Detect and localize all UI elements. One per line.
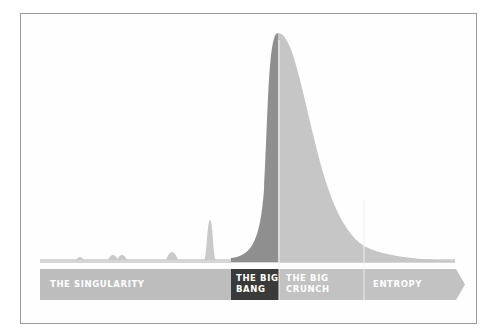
spike-5: [204, 220, 216, 260]
label-entropy: ENTROPY: [373, 279, 422, 290]
label-big-bang: THE BIG BANG: [236, 273, 279, 295]
big-bang-rise: [231, 33, 278, 262]
spike-1: [76, 257, 84, 260]
label-big-crunch: THE BIG CRUNCH: [286, 273, 330, 295]
singularity-spikes: [76, 220, 216, 260]
spike-3: [117, 255, 127, 260]
label-singularity: THE SINGULARITY: [50, 279, 145, 290]
spike-2: [108, 255, 118, 260]
big-crunch-fall: [278, 33, 455, 262]
spike-4: [166, 252, 178, 260]
